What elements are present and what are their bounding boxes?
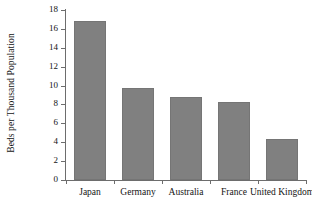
- y-axis-tick-label-text: 6: [38, 118, 58, 127]
- y-axis-tick-label-text: 12: [38, 62, 58, 71]
- bar-japan: [74, 21, 106, 180]
- x-axis-tick: [258, 181, 259, 184]
- bar-chart: Beds per Thousand Population 02468101214…: [0, 0, 312, 211]
- y-axis-tick-label-text: 0: [38, 175, 58, 184]
- y-axis-tick-label-text: 8: [38, 99, 58, 108]
- y-axis-title-text: Beds per Thousand Population: [6, 33, 16, 153]
- x-axis-tick: [210, 181, 211, 184]
- x-axis-tick: [306, 181, 307, 184]
- y-axis-tick-label-text: 16: [38, 24, 58, 33]
- x-axis-tick-label: Japan: [79, 187, 101, 197]
- x-axis-tick: [114, 181, 115, 184]
- y-axis-tick: [61, 86, 65, 87]
- y-axis-tick-label: 18: [38, 5, 58, 15]
- y-axis-tick-label: 4: [38, 137, 58, 147]
- x-axis-tick: [162, 181, 163, 184]
- y-axis-tick-label: 0: [38, 175, 58, 185]
- x-axis-tick-label: France: [221, 187, 247, 197]
- y-axis-tick-label: 14: [38, 43, 58, 53]
- x-axis-tick-label: Germany: [120, 187, 155, 197]
- x-axis-line: [65, 180, 307, 181]
- y-axis-tick: [61, 48, 65, 49]
- y-axis-tick-label: 12: [38, 62, 58, 72]
- y-axis-tick-label: 16: [38, 24, 58, 34]
- y-axis-tick: [61, 161, 65, 162]
- y-axis-tick: [61, 142, 65, 143]
- x-axis-tick-label: Australia: [169, 187, 204, 197]
- y-axis-tick-label: 8: [38, 99, 58, 109]
- y-axis-tick: [61, 123, 65, 124]
- y-axis-tick: [61, 67, 65, 68]
- bar-united-kingdom: [266, 139, 298, 180]
- y-axis-tick-label: 10: [38, 81, 58, 91]
- x-axis-tick-label: United Kingdom: [250, 187, 312, 197]
- y-axis-tick-label-text: 10: [38, 81, 58, 90]
- y-axis-tick: [61, 10, 65, 11]
- y-axis-tick-label-text: 18: [38, 5, 58, 14]
- y-axis-tick: [61, 29, 65, 30]
- y-axis-tick-label: 2: [38, 156, 58, 166]
- bar-france: [218, 102, 250, 180]
- bar-germany: [122, 88, 154, 180]
- y-axis-tick-label-text: 14: [38, 43, 58, 52]
- y-axis-tick-label-text: 2: [38, 156, 58, 165]
- y-axis-tick: [61, 104, 65, 105]
- y-axis-tick-label: 6: [38, 118, 58, 128]
- x-axis-tick: [66, 181, 67, 184]
- y-axis-title: Beds per Thousand Population: [0, 0, 22, 185]
- y-axis-line: [65, 9, 66, 181]
- bar-australia: [170, 97, 202, 180]
- y-axis-tick-label-text: 4: [38, 137, 58, 146]
- y-axis-tick: [61, 180, 65, 181]
